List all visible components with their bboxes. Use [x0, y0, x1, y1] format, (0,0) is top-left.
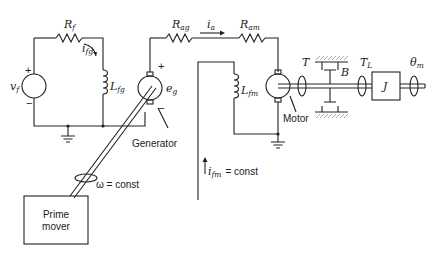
- label-rag: Rag: [171, 18, 190, 32]
- resistor-rf: [56, 34, 82, 42]
- label-eg: eg: [166, 82, 178, 96]
- torque-arrow-t: [298, 76, 306, 96]
- resistor-ram: [239, 34, 265, 42]
- label-lfg: Lfg: [109, 80, 125, 94]
- friction-damper: B: [315, 56, 349, 118]
- label-ram: Ram: [239, 18, 260, 32]
- ground-icon: [271, 134, 285, 148]
- source-minus: −: [26, 97, 32, 109]
- label-ifm: ifm= const: [208, 165, 258, 179]
- inductor-lfg: [103, 70, 108, 94]
- label-ifg: ifg: [82, 42, 93, 56]
- svg-text:mover: mover: [42, 221, 70, 232]
- motor: Motor T B TL J θm: [266, 56, 425, 134]
- label-j: J: [381, 80, 388, 93]
- svg-text:+: +: [158, 60, 164, 72]
- inductor-lfm: [234, 74, 239, 98]
- label-t: T: [302, 56, 311, 69]
- label-theta: θm: [410, 56, 424, 70]
- svg-text:Prime: Prime: [43, 209, 70, 220]
- angle-arrow-theta: [410, 76, 418, 96]
- prime-mover: Prime mover ω = const: [24, 174, 139, 244]
- label-tl: TL: [360, 56, 372, 70]
- label-ia: ia: [207, 18, 215, 32]
- label-lfm: Lfm: [240, 84, 258, 98]
- label-b: B: [340, 66, 349, 79]
- ground-icon: [61, 126, 75, 142]
- motor-shaft: [278, 84, 425, 88]
- label-vf: vf: [10, 80, 20, 94]
- resistor-rag: [166, 34, 192, 42]
- voltage-source-vf: [22, 74, 46, 98]
- torque-arrow-tl: [358, 76, 366, 96]
- label-generator: Generator: [132, 138, 178, 149]
- ward-leonard-diagram: Rf ifg Lfg vf + − + − eg Generator Rag i…: [0, 0, 436, 259]
- motor-field-circuit: Lfm ifm= const: [198, 62, 285, 200]
- svg-text:−: −: [158, 102, 164, 114]
- label-omega: ω = const: [96, 179, 139, 190]
- label-rf: Rf: [63, 18, 76, 32]
- label-motor: Motor: [283, 113, 309, 124]
- armature-circuit: Rag ia Ram: [150, 18, 278, 72]
- junction-node: [101, 124, 104, 127]
- source-plus: +: [25, 64, 31, 76]
